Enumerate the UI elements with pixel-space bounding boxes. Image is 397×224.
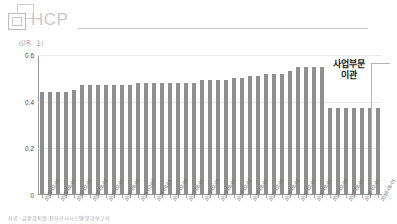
bar	[208, 80, 213, 194]
bar	[256, 76, 261, 194]
bar	[80, 85, 85, 194]
bar	[280, 74, 285, 194]
footer-divider	[8, 210, 382, 211]
unit-label: (단위 : 조)	[19, 39, 44, 47]
page-header: HCP	[0, 0, 390, 36]
bar	[312, 67, 317, 194]
bar	[176, 83, 181, 194]
bar	[336, 108, 341, 194]
bar	[96, 85, 101, 194]
bar	[248, 76, 253, 194]
logo-square-inner	[12, 17, 22, 26]
bar	[272, 74, 277, 194]
bar	[304, 67, 309, 194]
source-note: 자료 : 금융감독원 전자공시시스템 분기보고서	[8, 214, 288, 221]
annotation-line-1: 사업부문	[316, 59, 382, 70]
bar	[48, 92, 53, 194]
bar	[264, 74, 269, 194]
y-axis-tick-label: 0	[30, 192, 34, 199]
y-axis-tick-label: 0.4	[25, 98, 34, 105]
bar	[168, 83, 173, 194]
bar	[320, 67, 325, 194]
bar	[144, 83, 149, 194]
annotation-line-2: 이관	[316, 70, 382, 81]
bar	[112, 85, 117, 194]
bar	[40, 92, 45, 194]
y-axis-tick-label: 0.6	[25, 52, 34, 59]
brand-wordmark: HCP	[31, 11, 68, 28]
bar	[64, 92, 69, 194]
bar	[152, 83, 157, 194]
bar	[160, 83, 165, 194]
bar	[224, 80, 229, 194]
bar-chart: (단위 : 조) 00.20.40.6 2008-02-022008-08-01…	[0, 33, 390, 208]
bar	[240, 78, 245, 194]
bar	[128, 85, 133, 194]
bar	[288, 71, 293, 194]
bar	[232, 78, 237, 194]
bar	[296, 67, 301, 194]
header-rule	[78, 28, 368, 29]
bar	[352, 108, 357, 194]
y-axis-tick-label: 0.2	[25, 145, 34, 152]
annotation-label: 사업부문 이관	[316, 59, 382, 81]
bar	[192, 83, 197, 194]
annotation-rule-right	[371, 63, 372, 193]
